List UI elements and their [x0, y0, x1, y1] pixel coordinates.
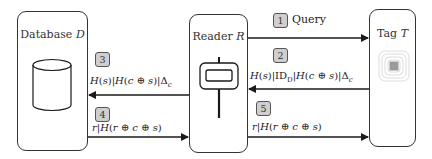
step-badge-1: 1	[273, 13, 288, 28]
rfid-tag-icon	[379, 51, 409, 81]
diagram-graphics	[0, 0, 432, 159]
step-badge-2: 2	[273, 48, 288, 63]
message-4-label: r|H(r ⊕ c ⊕ s)	[92, 122, 162, 133]
protocol-diagram: Database D Reader R Tag T	[0, 0, 432, 159]
rfid-reader-icon	[200, 57, 238, 118]
message-5-label: r|H(r ⊕ c ⊕ s)	[252, 121, 322, 132]
step-badge-3: 3	[95, 52, 110, 67]
database-cylinder-icon	[33, 60, 71, 111]
step-badge-5: 5	[256, 101, 271, 116]
message-2-label: H(s)|IDD|H(c ⊕ s)|Δc	[250, 70, 353, 84]
message-3-label: H(s)|H(c ⊕ s)|Δc	[90, 75, 172, 89]
message-1-label: Query	[292, 13, 326, 26]
step-badge-4: 4	[95, 107, 110, 122]
